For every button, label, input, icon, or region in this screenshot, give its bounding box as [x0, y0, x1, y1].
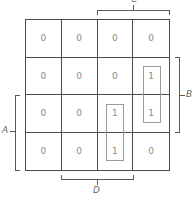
label-a: A	[2, 125, 8, 135]
cell-r4c2: 0	[62, 133, 98, 171]
group-col4-rect	[143, 66, 161, 123]
bracket-a-tick	[10, 131, 15, 132]
label-d: D	[93, 185, 100, 195]
cell-r1c3: 0	[98, 20, 134, 58]
cell-r1c2: 0	[62, 20, 98, 58]
group-col3-rect	[106, 104, 124, 161]
cell-r1c4: 0	[133, 20, 169, 58]
bracket-c	[97, 10, 170, 15]
cell-r3c1: 0	[26, 95, 62, 133]
bracket-c-tick	[133, 5, 134, 10]
bracket-a	[15, 95, 20, 171]
cell-r1c1: 0	[26, 20, 62, 58]
cell-r2c3: 0	[98, 58, 134, 96]
cell-r3c2: 0	[62, 95, 98, 133]
bracket-b-tick	[180, 95, 185, 96]
label-c: C	[131, 0, 137, 4]
cell-r4c1: 0	[26, 133, 62, 171]
cell-r2c1: 0	[26, 58, 62, 96]
label-b: B	[186, 89, 192, 99]
cell-r2c2: 0	[62, 58, 98, 96]
cell-r4c4: 0	[133, 133, 169, 171]
